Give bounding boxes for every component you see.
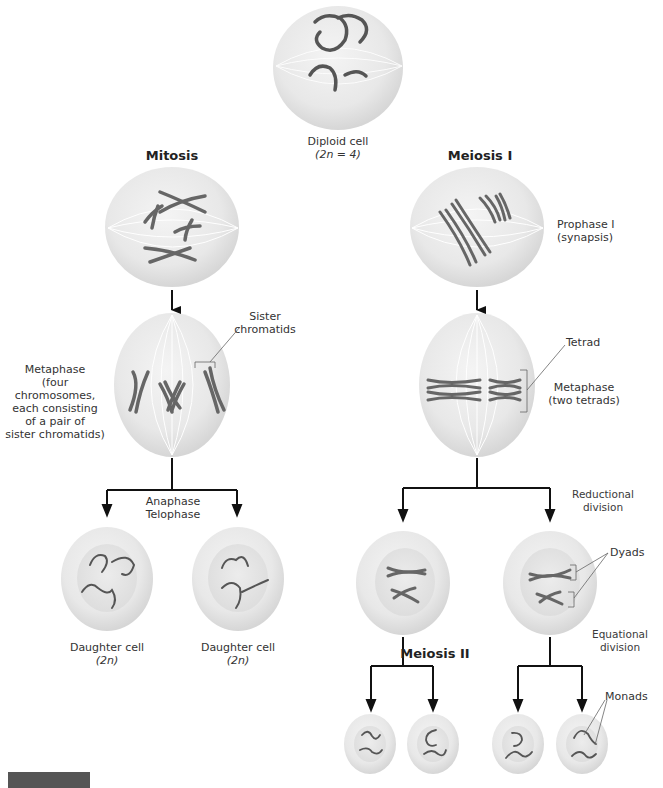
daughter-cell-2-label: Daughter cell (2n) — [193, 641, 283, 667]
monad-cell-2 — [407, 714, 459, 774]
anaphase-telophase-label: Anaphase Telophase — [140, 495, 206, 521]
equational-division-label: Equational division — [585, 628, 655, 654]
reductional-division-label: Reductional division — [568, 488, 638, 514]
meiosis1-daughter-cell-left — [356, 531, 450, 635]
sister-chromatids-label: Sister chromatids — [230, 310, 300, 336]
meiosis1-daughter-cell-right — [503, 531, 608, 635]
monad-cell-3 — [492, 714, 544, 774]
mitosis-metaphase-label: Metaphase (four chromosomes, each consis… — [0, 363, 110, 441]
mitosis-title: Mitosis — [132, 148, 212, 163]
mitosis-prophase-cell — [105, 167, 239, 287]
daughter-cell-1-label: Daughter cell (2n) — [62, 641, 152, 667]
monad-cell-1 — [344, 714, 396, 774]
meiosis2-title: Meiosis II — [395, 646, 475, 661]
diploid-label: Diploid cell (2n = 4) — [288, 135, 388, 161]
meiosis1-title: Meiosis I — [440, 148, 520, 163]
dyads-label: Dyads — [610, 546, 644, 559]
meiosis-metaphase1-cell — [419, 313, 565, 457]
meiosis-metaphase-label: Metaphase (two tetrads) — [548, 381, 620, 407]
mitosis-metaphase-cell — [114, 313, 240, 457]
daughter-cell-1 — [61, 527, 153, 631]
diploid-cell — [273, 6, 403, 130]
daughter-cell-2 — [192, 527, 284, 631]
footer-bar — [8, 772, 90, 788]
meiosis-prophase1-cell — [410, 167, 544, 287]
prophase1-label: Prophase I (synapsis) — [557, 218, 614, 244]
meiosis1-split-arrows — [399, 458, 554, 520]
tetrad-label: Tetrad — [566, 336, 600, 349]
monads-label: Monads — [605, 690, 648, 703]
